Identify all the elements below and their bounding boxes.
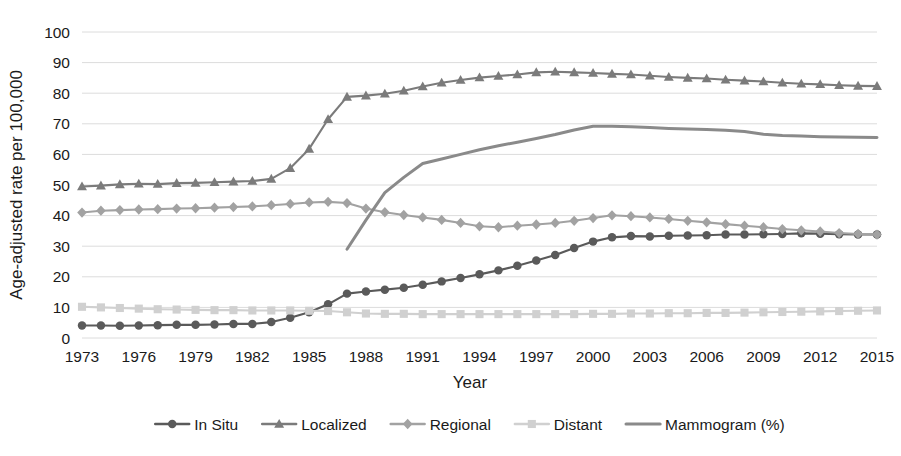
data-point-marker [191, 321, 199, 329]
y-tick-label: 10 [53, 299, 71, 316]
data-point-marker [381, 285, 389, 293]
data-point-marker [759, 308, 767, 316]
data-point-marker [97, 321, 105, 329]
data-point-marker [646, 309, 654, 317]
data-point-marker [418, 281, 426, 289]
y-tick-label: 20 [53, 268, 71, 285]
data-point-marker [438, 310, 446, 318]
data-point-marker [683, 231, 691, 239]
data-point-marker [135, 305, 143, 313]
data-point-marker [210, 306, 218, 314]
data-point-marker [684, 309, 692, 317]
data-point-marker [608, 233, 616, 241]
data-point-marker [305, 307, 313, 315]
x-tick-label: 1973 [65, 348, 99, 365]
x-tick-label: 1994 [462, 348, 497, 365]
data-point-marker [721, 230, 729, 238]
legend-label: Mammogram (%) [665, 416, 785, 433]
data-point-marker [154, 305, 162, 313]
data-point-marker [437, 277, 445, 285]
data-point-marker [475, 270, 483, 278]
x-tick-label: 2003 [633, 348, 667, 365]
data-point-marker [646, 232, 654, 240]
data-point-marker [703, 309, 711, 317]
data-point-marker [229, 320, 237, 328]
data-point-marker [740, 230, 748, 238]
data-point-marker [229, 306, 237, 314]
data-point-marker [513, 262, 521, 270]
x-axis-tick-labels: 1973197619791982198519881991199419972000… [65, 348, 894, 365]
data-point-marker [97, 303, 105, 311]
data-point-marker [173, 305, 181, 313]
data-point-marker [570, 310, 578, 318]
data-point-marker [740, 309, 748, 317]
data-point-marker [343, 289, 351, 297]
data-point-marker [589, 237, 597, 245]
data-point-marker [702, 231, 710, 239]
y-tick-label: 80 [53, 85, 71, 102]
data-point-marker [797, 308, 805, 316]
x-tick-label: 1988 [349, 348, 383, 365]
legend-label: Localized [301, 416, 367, 433]
y-tick-label: 90 [53, 54, 71, 71]
x-tick-label: 2009 [746, 348, 780, 365]
x-tick-label: 1985 [292, 348, 326, 365]
x-tick-label: 2006 [689, 348, 723, 365]
y-tick-label: 50 [53, 177, 71, 194]
x-tick-label: 2015 [860, 348, 894, 365]
data-point-marker [172, 321, 180, 329]
y-tick-label: 40 [53, 207, 71, 224]
data-point-marker [400, 284, 408, 292]
data-point-marker [210, 320, 218, 328]
data-point-marker [343, 308, 351, 316]
data-point-marker [78, 321, 86, 329]
y-tick-label: 60 [53, 146, 71, 163]
y-tick-label: 0 [61, 330, 70, 347]
data-point-marker [627, 232, 635, 240]
x-tick-label: 1991 [405, 348, 439, 365]
data-point-marker [475, 310, 483, 318]
y-axis-title: Age-adjusted rate per 100,000 [7, 70, 26, 300]
data-point-marker [116, 304, 124, 312]
x-tick-label: 1982 [235, 348, 269, 365]
data-point-marker [135, 321, 143, 329]
data-point-marker [551, 310, 559, 318]
legend-label: In Situ [194, 416, 238, 433]
x-tick-label: 2012 [803, 348, 837, 365]
data-point-marker [854, 307, 862, 315]
data-point-marker [192, 306, 200, 314]
data-point-marker [835, 307, 843, 315]
data-point-marker [589, 310, 597, 318]
x-tick-label: 1976 [122, 348, 156, 365]
data-point-marker [528, 420, 536, 428]
chart-canvas: 0102030405060708090100 19731976197919821… [0, 0, 901, 456]
data-point-marker [532, 310, 540, 318]
data-point-marker [153, 321, 161, 329]
data-point-marker [665, 232, 673, 240]
x-axis-title: Year [453, 373, 488, 392]
x-tick-label: 1997 [519, 348, 553, 365]
data-point-marker [267, 306, 275, 314]
data-point-marker [168, 420, 176, 428]
y-tick-label: 100 [44, 24, 70, 41]
data-point-marker [494, 266, 502, 274]
data-point-marker [722, 309, 730, 317]
data-point-marker [513, 310, 521, 318]
data-point-marker [400, 310, 408, 318]
data-point-marker [248, 320, 256, 328]
data-point-marker [456, 274, 464, 282]
data-point-marker [286, 314, 294, 322]
line-chart: 0102030405060708090100 19731976197919821… [0, 0, 901, 456]
y-tick-label: 30 [53, 238, 71, 255]
data-point-marker [532, 256, 540, 264]
data-point-marker [570, 244, 578, 252]
data-point-marker [362, 309, 370, 317]
data-point-marker [873, 306, 881, 314]
legend-label: Distant [554, 416, 603, 433]
data-point-marker [267, 318, 275, 326]
data-point-marker [419, 310, 427, 318]
data-point-marker [551, 251, 559, 259]
data-point-marker [286, 306, 294, 314]
x-tick-label: 1979 [178, 348, 212, 365]
data-point-marker [78, 303, 86, 311]
